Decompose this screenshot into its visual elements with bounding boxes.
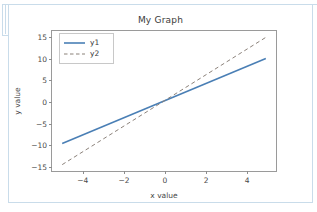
y-tick-label: 15 [37, 33, 47, 42]
legend-label-y1: y1 [90, 39, 99, 47]
y-tick-label: −15 [31, 162, 47, 171]
y-tick-mark [49, 102, 52, 103]
page-border-bottom [8, 202, 313, 203]
x-tick-mark [83, 171, 84, 174]
y-tick-mark [49, 167, 52, 168]
x-tick-label: 0 [163, 176, 168, 185]
y-tick-label: −10 [31, 141, 47, 150]
y-tick-mark [49, 145, 52, 146]
x-tick-mark [165, 171, 166, 174]
x-tick-label: 2 [204, 176, 209, 185]
x-tick-mark [206, 171, 207, 174]
chart-figure: My Graph 151050−5−10−15−4−2024 x value y… [9, 5, 312, 202]
x-tick-mark [124, 171, 125, 174]
page-border-tab-top [2, 4, 9, 5]
y-tick-mark [49, 37, 52, 38]
y-tick-mark [49, 124, 52, 125]
x-tick-label: −4 [77, 176, 88, 185]
page-border-left-mid [5, 4, 6, 34]
y-tick-mark [49, 80, 52, 81]
x-tick-label: −2 [118, 176, 129, 185]
legend-line-solid-icon [64, 39, 85, 47]
y-axis-label: y value [13, 87, 22, 114]
chart-legend: y1 y2 [59, 33, 114, 64]
page-border-left-outer [2, 4, 3, 36]
chart-title: My Graph [9, 15, 312, 25]
page-border-right [312, 4, 313, 203]
x-tick-label: 4 [245, 176, 250, 185]
legend-line-dashed-icon [64, 50, 85, 58]
legend-entry-y1: y1 [64, 37, 109, 48]
legend-label-y2: y2 [90, 50, 99, 58]
page-border-tab-bottom [2, 35, 9, 36]
y-tick-label: 5 [42, 76, 47, 85]
y-tick-label: 10 [37, 54, 47, 63]
x-axis-label: x value [51, 191, 277, 200]
y-tick-label: −5 [36, 119, 47, 128]
y-tick-mark [49, 59, 52, 60]
legend-entry-y2: y2 [64, 48, 109, 59]
y-tick-label: 0 [42, 98, 47, 107]
x-tick-mark [247, 171, 248, 174]
document-page-frame: My Graph 151050−5−10−15−4−2024 x value y… [0, 0, 317, 212]
